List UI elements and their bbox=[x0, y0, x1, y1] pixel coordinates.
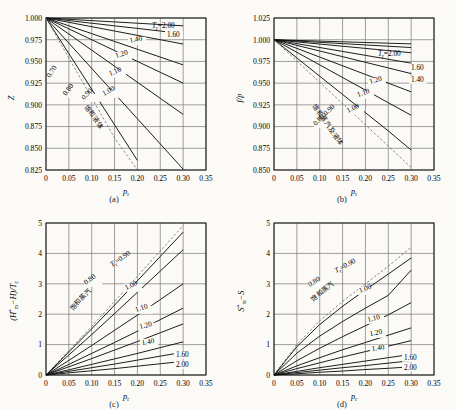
ytick-c-1: 1 bbox=[38, 340, 42, 349]
curve-label-a-1: 1.60 bbox=[167, 30, 180, 39]
ytick-d-0: 0 bbox=[266, 371, 270, 380]
curve-label-d-5: 1.40 bbox=[371, 342, 385, 353]
ytick-b-5: 0.975 bbox=[253, 57, 270, 66]
panel-c: 00.050.100.150.200.250.300.35 012345 Tr=… bbox=[0, 205, 228, 410]
ytick-b-6: 1.000 bbox=[253, 36, 270, 45]
panel-c-plot: 00.050.100.150.200.250.300.35 012345 Tr=… bbox=[0, 205, 228, 410]
ytick-b-3: 0.925 bbox=[253, 101, 270, 110]
panel-d: 00.050.100.150.200.250.300.35 012345 Tr=… bbox=[228, 205, 456, 410]
saturation-note-c: 饱和蒸汽 bbox=[67, 286, 92, 313]
panel-a: 00.050.100.150.200.250.300.35 0.8250.850… bbox=[0, 0, 228, 205]
ytick-labels-b: 0.8500.8750.9000.9250.9500.9751.0001.025 bbox=[253, 14, 270, 175]
xtick-b-7: 0.35 bbox=[427, 174, 440, 183]
xtick-c-0: 0 bbox=[44, 379, 48, 388]
panel-b-plot: 00.050.100.150.200.250.300.35 0.8500.875… bbox=[228, 0, 456, 205]
xtick-c-6: 0.30 bbox=[176, 379, 189, 388]
xtick-b-0: 0 bbox=[272, 174, 276, 183]
ytick-b-0: 0.850 bbox=[253, 166, 270, 175]
figure-grid: 00.050.100.150.200.250.300.35 0.8250.850… bbox=[0, 0, 456, 410]
xtick-d-7: 0.35 bbox=[427, 379, 440, 388]
ytick-d-1: 1 bbox=[266, 340, 270, 349]
xtick-d-2: 0.10 bbox=[313, 379, 326, 388]
xtick-d-4: 0.20 bbox=[359, 379, 372, 388]
ytick-labels-c: 012345 bbox=[38, 219, 42, 380]
ytick-c-4: 4 bbox=[38, 249, 42, 258]
ytick-d-2: 2 bbox=[266, 310, 270, 319]
panel-caption-a: (a) bbox=[0, 194, 228, 204]
xtick-c-2: 0.10 bbox=[85, 379, 98, 388]
xtick-b-4: 0.20 bbox=[359, 174, 372, 183]
curve-label-b-0: Tr=2.00 bbox=[378, 49, 401, 59]
curve-label-c-7: 2.00 bbox=[176, 360, 189, 369]
yaxis-label-d: S*m−S bbox=[236, 290, 247, 312]
xtick-a-4: 0.20 bbox=[131, 174, 144, 183]
curve-label-c-6: 1.60 bbox=[176, 350, 189, 359]
xtick-a-0: 0 bbox=[44, 174, 48, 183]
curve-label-c-0: Tr=0.90 bbox=[108, 248, 133, 269]
ytick-c-5: 5 bbox=[38, 219, 42, 228]
ytick-labels-a: 0.8250.8500.8750.9000.9250.9500.9751.000 bbox=[25, 14, 42, 175]
ytick-c-3: 3 bbox=[38, 280, 42, 289]
xtick-a-2: 0.10 bbox=[85, 174, 98, 183]
ytick-a-1: 0.850 bbox=[25, 144, 42, 153]
xtick-c-3: 0.15 bbox=[108, 379, 121, 388]
xtick-b-2: 0.10 bbox=[313, 174, 326, 183]
curve-label-b-2: 1.40 bbox=[411, 75, 424, 84]
xtick-c-5: 0.25 bbox=[154, 379, 167, 388]
xtick-labels-c: 00.050.100.150.200.250.300.35 bbox=[44, 379, 213, 388]
ytick-b-2: 0.900 bbox=[253, 122, 270, 131]
xtick-labels-a: 00.050.100.150.200.250.300.35 bbox=[44, 174, 213, 183]
xtick-b-3: 0.15 bbox=[336, 174, 349, 183]
xtick-c-1: 0.05 bbox=[62, 379, 75, 388]
xtick-a-6: 0.30 bbox=[176, 174, 189, 183]
yaxis-label-b: f/p bbox=[235, 94, 244, 103]
panel-caption-d: (d) bbox=[228, 399, 456, 409]
xtick-labels-b: 00.050.100.150.200.250.300.35 bbox=[272, 174, 441, 183]
ytick-labels-d: 012345 bbox=[266, 219, 270, 380]
yaxis-label-c: (H*m−H)/Tc bbox=[8, 281, 19, 321]
xtick-d-0: 0 bbox=[272, 379, 276, 388]
ytick-a-5: 0.950 bbox=[25, 57, 42, 66]
curve-label-d-0: Tr=0.90 bbox=[333, 256, 358, 276]
ytick-a-7: 1.000 bbox=[25, 14, 42, 23]
xtick-d-5: 0.25 bbox=[382, 379, 395, 388]
yaxis-label-a: Z bbox=[7, 95, 16, 100]
xtick-b-5: 0.25 bbox=[382, 174, 395, 183]
xtick-d-1: 0.05 bbox=[290, 379, 303, 388]
curve-label-b-1: 1.60 bbox=[411, 63, 424, 72]
curve-label-d-7: 2.00 bbox=[404, 363, 417, 372]
ytick-a-2: 0.875 bbox=[25, 122, 42, 131]
panel-b: 00.050.100.150.200.250.300.35 0.8500.875… bbox=[228, 0, 456, 205]
panel-caption-c: (c) bbox=[0, 399, 228, 409]
xtick-d-6: 0.30 bbox=[404, 379, 417, 388]
ytick-a-0: 0.825 bbox=[25, 166, 42, 175]
panel-caption-b: (b) bbox=[228, 194, 456, 204]
ytick-b-1: 0.875 bbox=[253, 144, 270, 153]
xtick-a-1: 0.05 bbox=[62, 174, 75, 183]
xtick-a-7: 0.35 bbox=[199, 174, 212, 183]
ytick-a-6: 0.975 bbox=[25, 36, 42, 45]
xtick-d-3: 0.15 bbox=[336, 379, 349, 388]
ytick-d-3: 3 bbox=[266, 280, 270, 289]
curve-labels-c: Tr=0.900.801.001.101.201.401.602.00 bbox=[82, 248, 192, 369]
ytick-a-4: 0.925 bbox=[25, 79, 42, 88]
ytick-b-4: 0.950 bbox=[253, 79, 270, 88]
xtick-b-6: 0.30 bbox=[404, 174, 417, 183]
xtick-b-1: 0.05 bbox=[290, 174, 303, 183]
curve-label-d-6: 1.60 bbox=[404, 353, 417, 362]
ytick-d-5: 5 bbox=[266, 219, 270, 228]
xtick-labels-d: 00.050.100.150.200.250.300.35 bbox=[272, 379, 441, 388]
ytick-c-2: 2 bbox=[38, 310, 42, 319]
xtick-c-4: 0.20 bbox=[131, 379, 144, 388]
ytick-a-3: 0.900 bbox=[25, 101, 42, 110]
xtick-a-5: 0.25 bbox=[154, 174, 167, 183]
ytick-d-4: 4 bbox=[266, 249, 270, 258]
xtick-a-3: 0.15 bbox=[108, 174, 121, 183]
xtick-c-7: 0.35 bbox=[199, 379, 212, 388]
ytick-b-7: 1.025 bbox=[253, 14, 270, 23]
panel-a-plot: 00.050.100.150.200.250.300.35 0.8250.850… bbox=[0, 0, 228, 205]
ytick-c-0: 0 bbox=[38, 371, 42, 380]
panel-d-plot: 00.050.100.150.200.250.300.35 012345 Tr=… bbox=[228, 205, 456, 410]
